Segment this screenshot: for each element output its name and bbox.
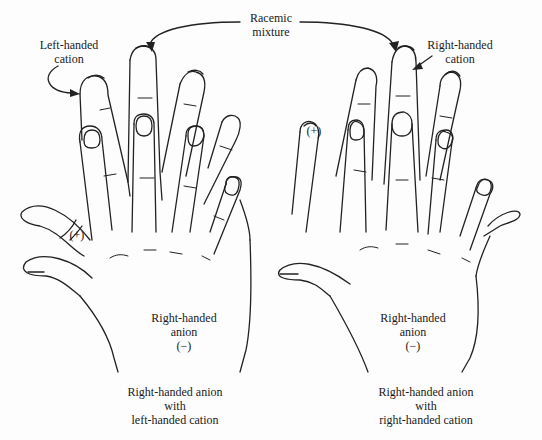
left-cation-sign: (+) [66,228,88,242]
caption-line: left-handed cation [115,413,235,427]
left-cation-label: Left-handed cation [34,38,104,66]
label-line: Right-handed [146,311,222,325]
right-caption: Right-handed anion with right-handed cat… [361,385,491,427]
racemic-mixture-label: Racemic mixture [241,11,301,39]
right-cation-sign: (+) [303,124,325,138]
anion-sign: (−) [375,339,451,353]
caption-line: with [361,399,491,413]
right-anion-label: Right-handed anion (−) [375,311,451,353]
left-caption: Right-handed anion with left-handed cati… [115,385,235,427]
caption-line: Right-handed anion [361,385,491,399]
caption-line: Right-handed anion [115,385,235,399]
label-line: Right-handed [375,311,451,325]
hands-illustration [0,0,542,440]
label-line: Racemic [241,11,301,25]
label-line: anion [146,325,222,339]
left-cation-arrow [48,66,72,93]
label-line: cation [425,52,495,66]
caption-line: with [115,399,235,413]
anion-sign: (−) [146,339,222,353]
label-line: anion [375,325,451,339]
left-anion-label: Right-handed anion (−) [146,311,222,353]
label-line: Right-handed [425,38,495,52]
label-line: cation [34,52,104,66]
label-line: Left-handed [34,38,104,52]
label-line: mixture [241,25,301,39]
racemic-salt-hands-diagram: Racemic mixture Left-handed cation Right… [0,0,542,440]
right-cation-label: Right-handed cation [425,38,495,66]
caption-line: right-handed cation [361,413,491,427]
